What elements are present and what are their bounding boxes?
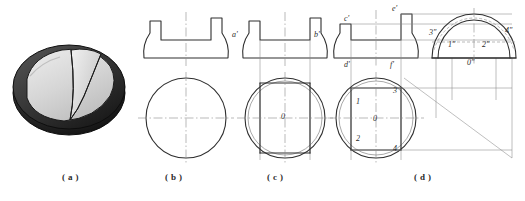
panel-a-pictorial — [13, 45, 125, 135]
vertex-label-b-prime: b' — [314, 30, 320, 39]
vertex-label-0: 0 — [373, 114, 377, 123]
vertex-label-2-double-prime: 2" — [482, 40, 489, 49]
vertex-label-c-prime: c' — [344, 14, 349, 23]
vertex-label-e-prime: e' — [392, 4, 397, 13]
vertex-label-f-prime: f' — [390, 60, 394, 69]
vertex-label-3: 3 — [393, 86, 397, 95]
vertex-label-2: 2 — [356, 134, 360, 143]
panel-caption-a: ( a ) — [62, 172, 79, 182]
vertex-label-1: 1 — [356, 97, 360, 106]
vertex-label-c-center-0: 0 — [281, 112, 285, 121]
panel-caption-d: ( d ) — [414, 172, 432, 182]
vertex-label-4: 4 — [393, 144, 397, 153]
panel-caption-c: ( c ) — [267, 172, 284, 182]
vertex-label-0-double-prime: 0" — [467, 58, 474, 67]
vertex-label-a-prime: a' — [232, 30, 238, 39]
vertex-label-3-double-prime: 3" — [429, 28, 436, 37]
vertex-label-d-prime: d' — [344, 60, 350, 69]
vertex-label-1-double-prime: 1" — [448, 40, 455, 49]
vertex-label-4-double-prime: 4" — [505, 26, 512, 35]
engineering-drawing-figure: ( a ) ( b ) ( c ) ( d ) a' b' 0 c' e' d'… — [0, 0, 525, 201]
drawing-canvas — [0, 0, 525, 201]
panel-caption-b: ( b ) — [165, 172, 183, 182]
panel-b-views — [138, 12, 234, 164]
